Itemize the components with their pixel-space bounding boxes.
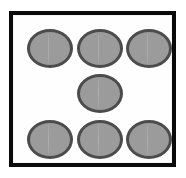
pip-bottom-right <box>126 120 172 159</box>
pip-middle-center <box>77 74 123 113</box>
die-face <box>9 11 176 167</box>
pip-bottom-center <box>77 120 123 159</box>
figure-root <box>0 0 186 178</box>
pip-top-center <box>77 29 123 68</box>
pip-top-right <box>126 29 172 68</box>
pip-bottom-left <box>27 120 73 159</box>
pip-top-left <box>27 29 73 68</box>
